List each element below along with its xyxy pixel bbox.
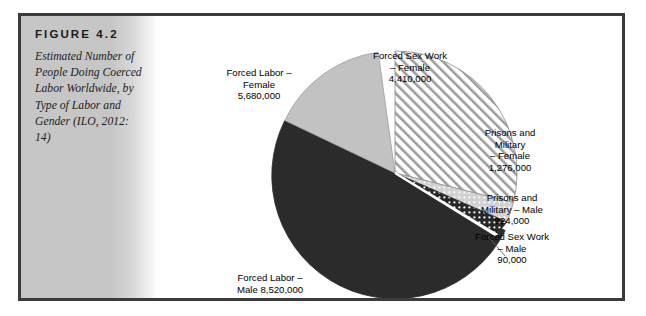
- figure-frame: FIGURE 4.2 Estimated Number of People Do…: [18, 13, 625, 301]
- figure-number: FIGURE 4.2: [35, 28, 144, 40]
- figure-caption-text: Estimated Number of People Doing Coerced…: [35, 49, 144, 146]
- pie-label-prisons-military-male: Prisons and Military – Male 924,000: [458, 192, 566, 227]
- pie-label-forced-sex-work-female: Forced Sex Work – Female 4,410,000: [350, 50, 470, 85]
- figure-caption-panel: FIGURE 4.2 Estimated Number of People Do…: [21, 16, 158, 298]
- pie-label-forced-labor-female: Forced Labor – Female 5,680,000: [206, 67, 312, 102]
- pie-chart-area: Forced Sex Work – Female 4,410,000 Priso…: [158, 16, 622, 298]
- pie-label-forced-sex-work-male: Forced Sex Work – Male 90,000: [454, 231, 570, 266]
- pie-label-prisons-military-female: Prisons and Military – Female 1,276,000: [460, 127, 560, 173]
- pie-label-forced-labor-male: Forced Labor – Male 8,520,000: [214, 272, 326, 295]
